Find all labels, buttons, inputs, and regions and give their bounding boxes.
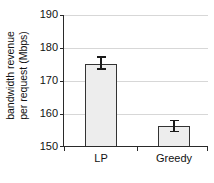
y-tick-label-190: 190 <box>28 9 58 20</box>
bar-lp[interactable] <box>85 64 117 147</box>
y-tick-label-170: 170 <box>28 75 58 86</box>
x-tick-mark-1 <box>137 146 138 151</box>
error-bar-lp-cap-top <box>97 56 106 57</box>
gridline-190 <box>64 15 208 16</box>
bar-chart-figure: bandwidth revenue per request (Mbps) 190… <box>0 0 214 183</box>
gridline-180 <box>64 48 208 49</box>
y-axis-title-line1: bandwidth revenue <box>4 31 17 120</box>
y-tick-mark-190 <box>60 15 64 16</box>
y-axis-title-line2: per request (Mbps) <box>16 31 29 120</box>
y-tick-mark-160 <box>60 114 64 115</box>
error-bar-lp-cap-bottom <box>97 68 106 69</box>
x-tick-mark-0 <box>64 146 65 151</box>
x-tick-label-lp: LP <box>81 153 121 164</box>
y-tick-label-180: 180 <box>28 42 58 53</box>
error-bar-greedy-cap-bottom <box>170 131 179 132</box>
y-tick-mark-170 <box>60 81 64 82</box>
x-tick-label-greedy: Greedy <box>149 153 199 164</box>
error-bar-greedy-cap-top <box>170 120 179 121</box>
x-tick-mark-2 <box>207 146 208 151</box>
y-tick-label-150: 150 <box>28 141 58 152</box>
y-tick-label-160: 160 <box>28 108 58 119</box>
plot-area: LP Greedy <box>63 15 207 147</box>
y-tick-mark-180 <box>60 48 64 49</box>
